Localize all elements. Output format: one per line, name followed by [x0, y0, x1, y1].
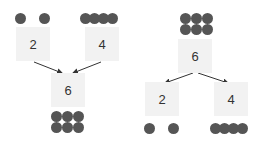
number-box-input-2: 2 [16, 27, 50, 61]
arrow-2-to-6 [34, 62, 62, 73]
dot [62, 111, 73, 122]
dot [237, 123, 248, 134]
box-label: 2 [158, 92, 165, 107]
box-label: 4 [98, 37, 105, 52]
number-box-output-2: 2 [145, 82, 179, 116]
dot [202, 24, 213, 35]
arrow-4-to-6 [73, 62, 101, 73]
dot [180, 13, 191, 24]
box-label: 6 [191, 49, 198, 64]
number-box-output-4: 4 [214, 82, 248, 116]
dot [191, 24, 202, 35]
box-label: 6 [64, 83, 71, 98]
number-box-output-6: 6 [51, 73, 85, 107]
dot [107, 13, 118, 24]
box-label: 2 [29, 37, 36, 52]
number-box-input-6: 6 [178, 39, 212, 73]
dot [191, 13, 202, 24]
dot [39, 13, 50, 24]
dot [180, 24, 191, 35]
dot [168, 123, 179, 134]
dot [51, 122, 62, 133]
dot [62, 122, 73, 133]
dot [202, 13, 213, 24]
number-box-input-4: 4 [85, 27, 119, 61]
dot [73, 111, 84, 122]
dot [144, 123, 155, 134]
box-label: 4 [227, 92, 234, 107]
dot [51, 111, 62, 122]
dot [73, 122, 84, 133]
dot [15, 13, 26, 24]
